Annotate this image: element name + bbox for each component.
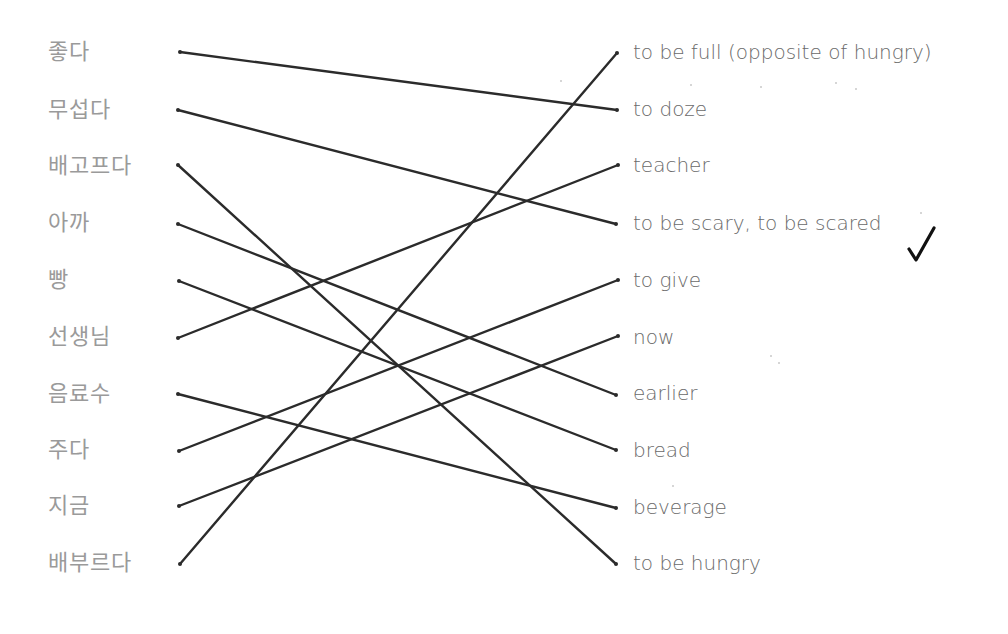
matching-worksheet: 좋다 무섭다 배고프다 아까 빵 선생님 음료수 주다 지금 배부르다 to b… (0, 0, 1008, 634)
english-word-bread: bread (633, 437, 691, 463)
korean-word-jigeum: 지금 (48, 492, 90, 520)
korean-word-akka: 아까 (48, 209, 90, 237)
match-line-seonsaengnim-teacher (178, 165, 618, 338)
match-line-museopda-scary (178, 110, 616, 224)
english-word-hungry: to be hungry (633, 550, 761, 576)
match-lines (0, 0, 1008, 634)
match-line-jota-doze (180, 52, 617, 110)
korean-word-ppang: 빵 (48, 266, 69, 294)
english-word-give: to give (633, 267, 701, 293)
korean-word-museopda: 무섭다 (48, 96, 111, 124)
match-line-jigeum-now (179, 336, 618, 506)
english-word-beverage: beverage (633, 494, 727, 520)
scan-speck (778, 362, 780, 364)
scan-speck (770, 355, 772, 357)
korean-word-juda: 주다 (48, 436, 90, 464)
check-mark-icon (905, 222, 939, 264)
korean-word-eumryosu: 음료수 (48, 380, 111, 408)
english-word-teacher: teacher (633, 152, 710, 178)
korean-word-baegopeuda: 배고프다 (48, 152, 132, 180)
korean-word-jota: 좋다 (48, 38, 90, 66)
scan-speck (920, 212, 922, 214)
english-word-scary: to be scary, to be scared (633, 210, 882, 236)
korean-word-baebureuda: 배부르다 (48, 549, 132, 577)
scan-speck (835, 82, 837, 84)
scan-speck (560, 80, 562, 82)
english-word-full: to be full (opposite of hungry) (633, 39, 932, 65)
scan-speck (760, 86, 762, 88)
korean-word-seonsaengnim: 선생님 (48, 323, 111, 351)
english-word-now: now (633, 324, 674, 350)
match-line-baebureuda-full (180, 53, 617, 564)
english-word-doze: to doze (633, 96, 707, 122)
scan-speck (855, 88, 857, 90)
scan-speck (672, 485, 674, 487)
scan-speck (690, 84, 692, 86)
english-word-earlier: earlier (633, 380, 697, 406)
